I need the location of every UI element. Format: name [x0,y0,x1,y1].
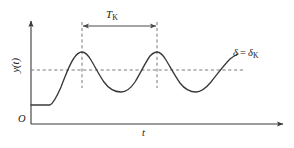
oscillation-diagram-canvas [0,0,294,148]
response-curve [31,52,238,105]
x-axis-label: t [142,128,145,139]
y-axis-label: y(t) [11,43,22,58]
y-axis-label-text: y(t) [11,58,22,73]
period-label-subscript: K [112,13,118,22]
delta-equals-sign: = [238,47,248,58]
figure-container: TK δ = δK y(t) O t [0,0,294,148]
origin-label: O [18,114,26,125]
delta-curve-label: δ = δK [233,48,258,59]
delta-value-subscript: K [253,51,258,60]
period-label: TK [106,9,118,20]
